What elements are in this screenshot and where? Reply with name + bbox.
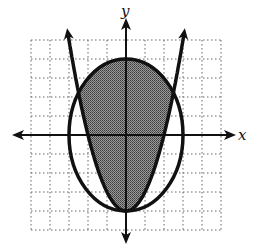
graph: y x [0, 0, 253, 247]
y-axis-label: y [120, 2, 130, 20]
x-axis-label: x [238, 126, 247, 144]
